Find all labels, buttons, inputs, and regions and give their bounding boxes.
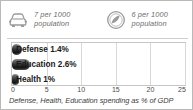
infographic-card: 7 per 1000 population 6 per 1000 populat… [0,0,193,110]
bar-row: Health 1% [12,73,185,87]
bar-row: Education 2.6% [12,58,185,72]
x-axis: 0510152025 [11,86,186,96]
legend-label-cars: 7 per 1000 population [34,11,70,28]
bar-label-defense: Defense 1.4% [16,43,69,57]
bar-series: Defense 1.4%Education 2.6%Health 1% [12,43,185,85]
plot-area: Defense 1.4%Education 2.6%Health 1% [11,42,186,86]
legend-item-cars: 7 per 1000 population [5,9,93,31]
legend-item-secondary: 6 per 1000 population [93,9,191,31]
chart-caption: Defense, Health, Education spending as %… [9,96,189,105]
bar-row: Defense 1.4% [12,43,185,57]
legend-label-secondary: 6 per 1000 population [132,11,168,28]
legend-divider [7,38,188,39]
bar-label-health: Health 1% [16,73,55,87]
gridline [185,43,186,85]
x-tick-label: 10 [77,86,85,93]
x-tick-label: 15 [112,86,120,93]
car-icon [5,9,31,31]
bar-label-education: Education 2.6% [16,58,77,72]
circle-slash-icon [103,9,129,31]
x-tick-label: 20 [146,86,154,93]
x-tick-label: 0 [11,86,15,93]
x-tick-label: 25 [178,86,186,93]
legend: 7 per 1000 population 6 per 1000 populat… [1,1,193,39]
x-tick-label: 5 [45,86,49,93]
